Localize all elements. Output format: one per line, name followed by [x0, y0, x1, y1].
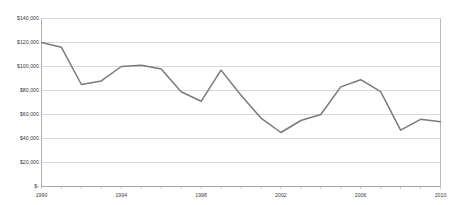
- x-axis-tick-label: 2006: [346, 193, 376, 198]
- line-chart: $-$20,000$40,000$60,000$80,000$100,000$1…: [0, 0, 460, 205]
- x-axis-tick-label: 2010: [426, 193, 456, 198]
- x-axis-tick-label: 2002: [266, 193, 296, 198]
- x-axis-tick-label: 1998: [186, 193, 216, 198]
- x-axis-tick-label: 1990: [27, 193, 57, 198]
- x-axis-labels: 199019941998200220062010: [0, 0, 460, 205]
- x-axis-tick-label: 1994: [106, 193, 136, 198]
